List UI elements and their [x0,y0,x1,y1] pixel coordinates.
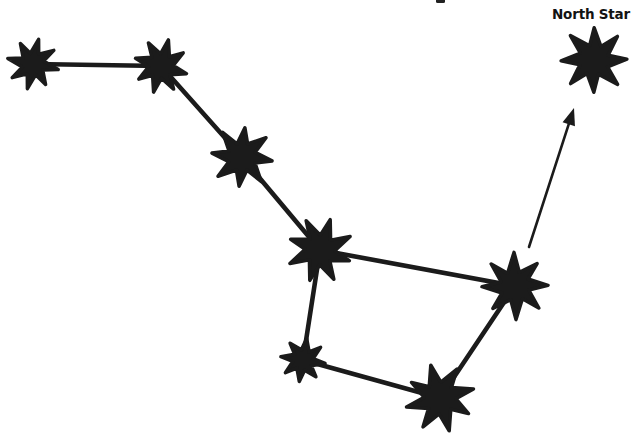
dipper-star-6 [281,339,325,382]
north-star-pointer-arrow [529,108,575,247]
dipper-star-4 [290,220,350,281]
dipper-star-7 [407,365,474,431]
constellation-lines [33,64,515,398]
arrow-head [563,108,575,126]
arrow-shaft [529,118,571,247]
constellation-svg: North Star [0,0,635,437]
dipper-star-1 [8,39,58,88]
constellation-diagram: North Star [0,0,635,437]
north-star-label: North Star [552,6,630,22]
dipper-star-5 [482,252,548,319]
constellation-line-4 [320,250,515,286]
cropped-title-fragment [436,0,445,3]
north-star [561,28,627,92]
